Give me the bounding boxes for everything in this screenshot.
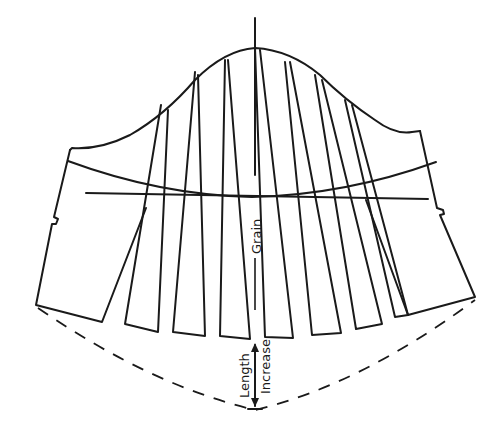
cap-curve — [70, 48, 420, 150]
right-side-panel — [366, 131, 475, 315]
pattern-diagram: Grain Length Increase — [0, 0, 501, 437]
length-label: Length — [237, 353, 252, 398]
strip-1 — [125, 105, 168, 332]
cap-line — [68, 161, 436, 197]
strip-2 — [173, 72, 205, 336]
strip-3 — [220, 60, 250, 339]
strip-5 — [285, 62, 341, 335]
grain-label: Grain — [249, 219, 264, 254]
increase-label: Increase — [258, 339, 273, 394]
arrow-head-down-icon — [251, 398, 259, 407]
